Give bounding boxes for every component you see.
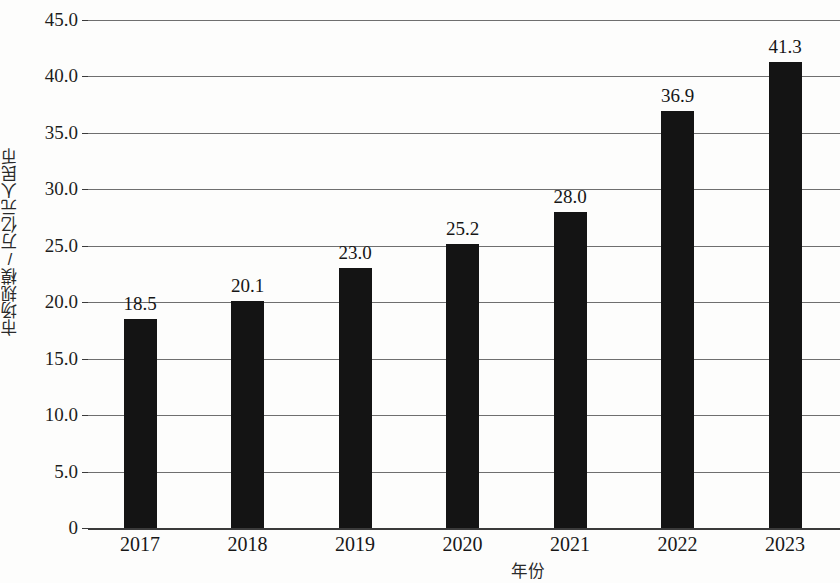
bar [339, 268, 372, 528]
y-tick-label: 15.0 [26, 348, 78, 370]
x-tick-label: 2017 [120, 533, 160, 556]
bar-value-label: 23.0 [338, 242, 371, 264]
x-tick-label: 2018 [228, 533, 268, 556]
x-axis-baseline [88, 528, 840, 530]
y-tick-label: 10.0 [26, 404, 78, 426]
bar [661, 111, 694, 528]
y-tick-label: 5.0 [26, 461, 78, 483]
bar [231, 301, 264, 528]
y-tick-label: 0 [26, 517, 78, 539]
x-tick-label: 2019 [335, 533, 375, 556]
x-tick-label: 2022 [658, 533, 698, 556]
plot-area: 18.520.123.025.228.036.941.3 20172018201… [88, 0, 840, 583]
bar-value-label: 18.5 [123, 293, 156, 315]
gridline [88, 76, 840, 77]
bar-value-label: 36.9 [661, 85, 694, 107]
bar-chart: 市场规模/万亿元人民币 05.010.015.020.025.030.035.0… [0, 0, 840, 583]
y-tick-label: 45.0 [26, 9, 78, 31]
x-axis-title: 年份 [511, 558, 545, 582]
bar-value-label: 25.2 [446, 218, 479, 240]
gridline [88, 133, 840, 134]
y-tick-label: 25.0 [26, 235, 78, 257]
bar-value-label: 28.0 [553, 186, 586, 208]
gridline [88, 20, 840, 21]
gridline [88, 189, 840, 190]
y-tick-label: 30.0 [26, 178, 78, 200]
x-tick-label: 2021 [550, 533, 590, 556]
y-axis-ticks: 05.010.015.020.025.030.035.040.045.0 [22, 0, 78, 583]
y-tick-label: 40.0 [26, 65, 78, 87]
bar [446, 244, 479, 528]
x-tick-label: 2023 [765, 533, 805, 556]
bar [124, 319, 157, 528]
bar-value-label: 41.3 [768, 36, 801, 58]
bar [769, 62, 802, 528]
y-tick-label: 35.0 [26, 122, 78, 144]
bar [554, 212, 587, 528]
bar-value-label: 20.1 [231, 275, 264, 297]
y-tick-label: 20.0 [26, 291, 78, 313]
x-tick-label: 2020 [443, 533, 483, 556]
